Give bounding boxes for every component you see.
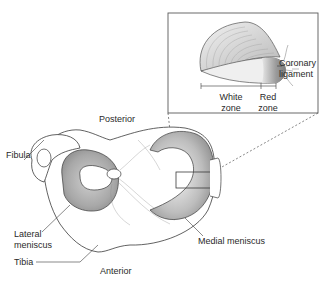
label-tibia: Tibia [14,257,33,267]
label-white-zone-1: White [211,92,251,102]
label-lateral-meniscus-1: Lateral [14,229,42,239]
label-coronary-2: ligament [279,69,313,79]
label-medial-meniscus: Medial meniscus [198,236,265,246]
label-anterior: Anterior [100,266,132,276]
label-red-zone-2: zone [253,103,283,113]
label-coronary-1: Coronary [279,58,316,68]
label-lateral-meniscus-2: meniscus [14,240,52,250]
label-red-zone-1: Red [253,92,283,102]
label-fibula: Fibula [6,150,31,160]
label-posterior: Posterior [99,114,135,124]
label-white-zone-2: zone [211,103,251,113]
